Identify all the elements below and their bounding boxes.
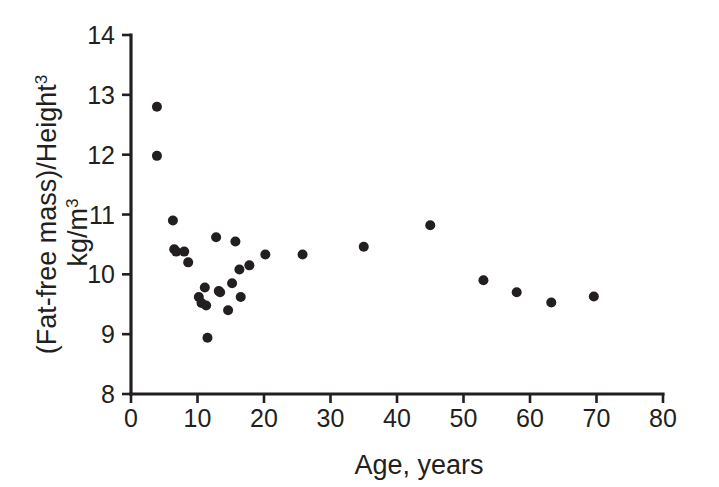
data-point — [200, 282, 210, 292]
data-point — [223, 305, 233, 315]
scatter-plot-figure: 891011121314 01020304050607080 Age, year… — [0, 0, 719, 487]
x-tick-label: 10 — [184, 404, 212, 432]
data-point — [260, 250, 270, 260]
data-point — [211, 232, 221, 242]
x-tick-label: 70 — [583, 404, 611, 432]
x-tick-label: 80 — [649, 404, 677, 432]
data-point — [202, 333, 212, 343]
plot-canvas: 891011121314 01020304050607080 Age, year… — [0, 0, 719, 487]
data-point — [298, 250, 308, 260]
y-axis-title-line2: kg/m3 — [63, 199, 93, 267]
x-tick-label: 40 — [383, 404, 411, 432]
x-axis-ticks: 01020304050607080 — [124, 394, 677, 432]
y-tick-label: 9 — [101, 320, 115, 348]
y-axis-title-line1: (Fat-free mass)/Height3 — [32, 75, 62, 355]
data-points — [152, 102, 599, 343]
data-point — [230, 236, 240, 246]
data-point — [234, 265, 244, 275]
data-point — [512, 287, 522, 297]
x-tick-label: 30 — [317, 404, 345, 432]
x-tick-label: 20 — [250, 404, 278, 432]
x-axis-title: Age, years — [354, 450, 483, 480]
y-axis-ticks: 891011121314 — [87, 21, 131, 408]
x-tick-label: 50 — [450, 404, 478, 432]
data-point — [215, 287, 225, 297]
data-point — [227, 278, 237, 288]
data-point — [179, 247, 189, 257]
data-point — [201, 300, 211, 310]
data-point — [589, 291, 599, 301]
data-point — [244, 260, 254, 270]
data-point — [425, 220, 435, 230]
y-axis-title: (Fat-free mass)/Height3kg/m3 — [32, 75, 93, 355]
y-tick-label: 8 — [101, 380, 115, 408]
data-point — [152, 102, 162, 112]
data-point — [546, 297, 556, 307]
x-tick-label: 60 — [516, 404, 544, 432]
data-point — [168, 215, 178, 225]
data-point — [183, 257, 193, 267]
data-point — [478, 275, 488, 285]
data-point — [359, 242, 369, 252]
x-tick-label: 0 — [124, 404, 138, 432]
y-tick-label: 13 — [87, 81, 115, 109]
y-tick-label: 12 — [87, 141, 115, 169]
data-point — [152, 151, 162, 161]
data-point — [236, 292, 246, 302]
y-tick-label: 14 — [87, 21, 115, 49]
